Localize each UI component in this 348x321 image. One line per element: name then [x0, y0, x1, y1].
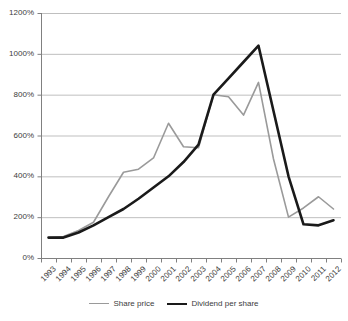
line-chart: 0%200%400%600%800%1000%1200% 19931994199…: [0, 0, 348, 321]
legend-item-dividend-per-share: Dividend per share: [167, 299, 258, 308]
legend-swatch-dividend-per-share: [167, 303, 187, 305]
legend-label-dividend-per-share: Dividend per share: [191, 299, 258, 308]
chart-legend: Share price Dividend per share: [0, 299, 348, 308]
legend-swatch-share-price: [89, 303, 109, 304]
x-axis-tick-labels: 1993199419951996199719981999200020012002…: [0, 0, 348, 321]
legend-label-share-price: Share price: [113, 299, 154, 308]
legend-item-share-price: Share price: [89, 299, 154, 308]
